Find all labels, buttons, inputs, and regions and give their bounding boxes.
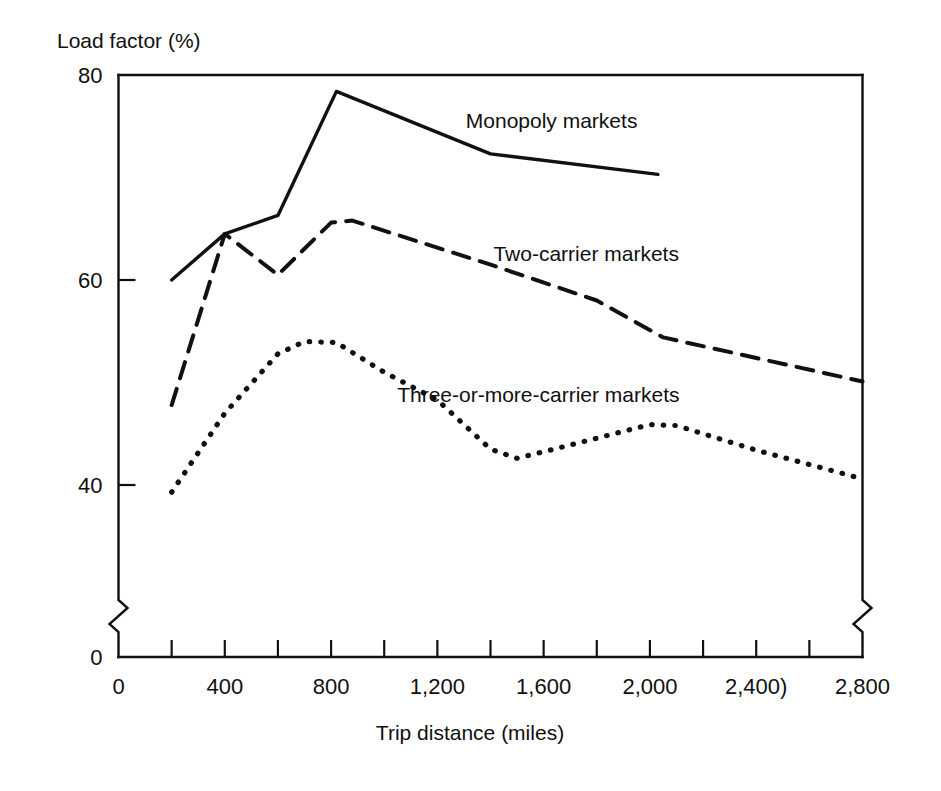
y-tick-label: 40 [78,473,102,498]
series-label-1: Two-carrier markets [493,242,679,265]
chart-container: Load factor (%) Trip distance (miles) 04… [0,0,941,791]
x-axis-title: Trip distance (miles) [376,721,564,744]
line-chart: Load factor (%) Trip distance (miles) 04… [0,0,941,791]
x-tick-label: 400 [206,674,243,699]
series-annotations: Monopoly marketsTwo-carrier marketsThree… [397,109,679,406]
y-tick-label: 60 [78,268,102,293]
x-tick-label: 800 [313,674,350,699]
y-axis-tick-labels: 8060400 [78,63,102,670]
x-tick-label: 0 [112,674,124,699]
series-line-dotted [172,342,863,493]
x-tick-label: 1,600 [516,674,571,699]
data-series [172,91,863,492]
x-tick-label: 2,800 [835,674,890,699]
x-axis-tick-labels: 04008001,2001,6002,0002,400)2,800 [112,674,890,699]
x-tick-label: 1,200 [410,674,465,699]
x-tick-label: 2,000 [622,674,677,699]
series-label-2: Three-or-more-carrier markets [397,383,679,406]
y-axis-ticks [119,280,136,485]
y-tick-label: 80 [78,63,102,88]
series-label-0: Monopoly markets [466,109,638,132]
plot-frame [110,75,872,657]
y-axis-line [110,75,128,657]
x-tick-label: 2,400) [725,674,787,699]
x-axis-ticks [172,640,810,657]
y-axis-title: Load factor (%) [57,29,201,52]
y-tick-label: 0 [90,645,102,670]
right-frame-line [854,75,872,657]
